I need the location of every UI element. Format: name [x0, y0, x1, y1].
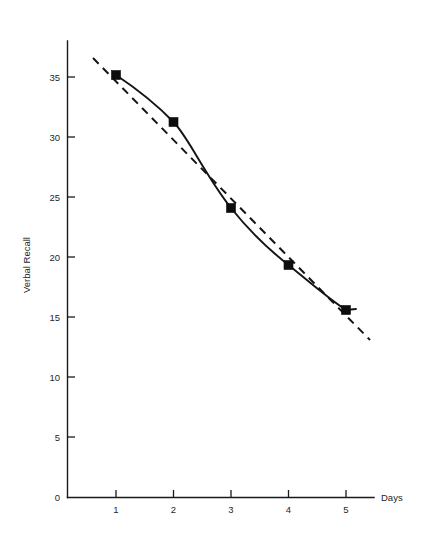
- y-tick-label-35: 35: [49, 72, 60, 83]
- y-tick-label-25: 25: [49, 192, 60, 203]
- y-tick-label-20: 20: [49, 252, 60, 263]
- data-point-day-2: [169, 118, 178, 127]
- x-tick-label-5: 5: [343, 504, 348, 515]
- x-axis-title: Days: [381, 492, 403, 503]
- y-tick-label-10: 10: [49, 372, 60, 383]
- y-tick-label-5: 5: [55, 432, 60, 443]
- chart-container: 35 30 25 20 15 10 5 0 1 2 3 4 5 Days: [0, 0, 430, 541]
- data-point-day-3: [227, 204, 236, 213]
- x-tick-label-1: 1: [113, 504, 118, 515]
- observed-curve-solid: [116, 75, 356, 310]
- y-axis-ticks: [68, 77, 76, 437]
- x-axis-tick-labels: 1 2 3 4 5: [113, 504, 348, 515]
- data-point-day-5: [342, 306, 351, 315]
- y-tick-label-0: 0: [55, 492, 60, 503]
- data-point-markers: [112, 71, 351, 315]
- verbal-recall-line-chart: 35 30 25 20 15 10 5 0 1 2 3 4 5 Days: [0, 0, 430, 541]
- data-point-day-1: [112, 71, 121, 80]
- y-axis-tick-labels: 35 30 25 20 15 10 5 0: [49, 72, 60, 504]
- y-tick-label-30: 30: [49, 132, 60, 143]
- x-tick-label-3: 3: [228, 504, 233, 515]
- data-point-day-4: [284, 261, 293, 270]
- x-tick-label-4: 4: [286, 504, 291, 515]
- x-tick-label-2: 2: [171, 504, 176, 515]
- y-axis-title: Verbal Recall: [21, 237, 32, 293]
- y-tick-label-15: 15: [49, 312, 60, 323]
- x-axis-ticks: [116, 490, 346, 498]
